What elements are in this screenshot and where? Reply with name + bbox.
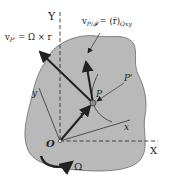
angular-velocity-label: Ω <box>74 161 82 172</box>
point-P-marker <box>90 100 96 106</box>
X-axis-label: X <box>150 145 158 156</box>
origin-marker <box>58 139 61 142</box>
point-P-label: P <box>95 89 103 99</box>
origin-label: O <box>46 138 55 149</box>
relative-velocity-label: vP/𝓕 = (ṙ)Oxy <box>81 16 132 28</box>
point-prime-label: P' <box>123 73 133 83</box>
body-y-axis-label: y <box>31 88 38 98</box>
transport-velocity-label: vP' = Ω × r <box>4 32 53 43</box>
rigid-body-diagram: Y X y x O P P' r Ω vP' = Ω × r vP/𝓕 = (ṙ… <box>0 0 169 178</box>
body-x-axis-label: x <box>124 122 129 132</box>
position-vector-label: r <box>80 110 85 120</box>
Y-axis-label: Y <box>47 10 56 23</box>
relative-velocity-expression: = (ṙ) <box>97 16 120 26</box>
transport-velocity-expression: = Ω × r <box>16 32 53 42</box>
relative-velocity-frame-subscript: Oxy <box>120 20 132 28</box>
